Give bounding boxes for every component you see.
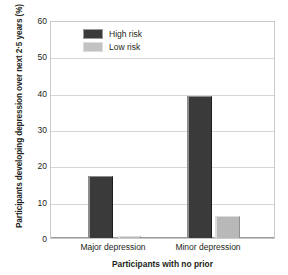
legend-swatch-icon-high-risk (83, 29, 103, 39)
legend: High risk Low risk (83, 27, 175, 53)
y-tick-label-40: 40 (21, 90, 47, 99)
plot-area: High risk Low risk (50, 21, 275, 239)
x-axis-title: Participants with no prior (50, 259, 275, 269)
bar-minor-depression-low-risk[interactable] (215, 216, 240, 238)
x-tick-label-minor-depression: Minor depression (153, 242, 263, 252)
bar-major-depression-high-risk[interactable] (88, 176, 113, 238)
gridline-20 (51, 167, 274, 168)
bar-minor-depression-high-risk[interactable] (187, 96, 212, 238)
gridline-10 (51, 204, 274, 205)
bar-chart-figure: Participants developing depression over … (0, 0, 288, 275)
y-tick-label-50: 50 (21, 53, 47, 62)
gridline-40 (51, 95, 274, 96)
legend-label-low-risk: Low risk (109, 42, 140, 52)
gridline-50 (51, 58, 274, 59)
y-tick-label-60: 60 (21, 17, 47, 26)
x-axis-tick-labels: Major depression Minor depression (50, 242, 275, 256)
legend-label-high-risk: High risk (109, 29, 142, 39)
y-tick-label-30: 30 (21, 126, 47, 135)
legend-item-high-risk[interactable]: High risk (83, 27, 175, 40)
legend-swatch-icon-low-risk (83, 42, 103, 52)
legend-item-low-risk[interactable]: Low risk (83, 40, 175, 53)
y-tick-label-0: 0 (21, 235, 47, 244)
y-tick-label-10: 10 (21, 199, 47, 208)
x-axis-baseline (51, 237, 274, 238)
bar-major-depression-low-risk[interactable] (118, 236, 141, 238)
x-tick-label-major-depression: Major depression (58, 242, 168, 252)
y-tick-label-20: 20 (21, 162, 47, 171)
gridline-30 (51, 131, 274, 132)
